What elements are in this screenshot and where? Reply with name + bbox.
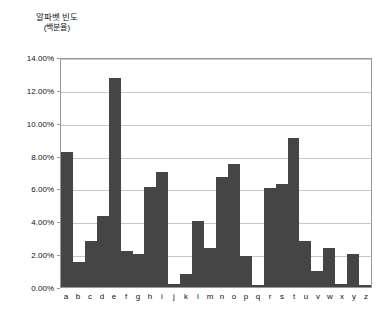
x-axis-tick-label: p	[240, 292, 252, 301]
x-axis-tick-label: v	[312, 292, 324, 301]
bar-slot	[216, 59, 228, 287]
y-axis-tick-label: 6.00%	[31, 185, 54, 194]
x-axis-tick-label: q	[252, 292, 264, 301]
bar-slot	[240, 59, 252, 287]
bar-slot	[121, 59, 133, 287]
x-axis-tick-label: e	[108, 292, 120, 301]
x-axis-tick-label: d	[96, 292, 108, 301]
x-axis-tick-label: g	[132, 292, 144, 301]
x-axis-tick-label: h	[144, 292, 156, 301]
bar-slot	[180, 59, 192, 287]
bar-m	[204, 248, 216, 287]
bar-slot	[347, 59, 359, 287]
bar-e	[109, 78, 121, 287]
bar-g	[133, 254, 145, 287]
chart-subtitle: (백분율)	[14, 23, 100, 33]
y-axis: 14.00%12.00%10.00%8.00%6.00%4.00%2.00%0.…	[0, 58, 60, 288]
bar-y	[347, 254, 359, 287]
y-axis-tick-label: 8.00%	[31, 152, 54, 161]
x-axis-tick-label: b	[72, 292, 84, 301]
bar-q	[252, 285, 264, 287]
x-axis-tick-label: s	[276, 292, 288, 301]
y-axis-tick-label: 4.00%	[31, 218, 54, 227]
x-axis-tick-label: t	[288, 292, 300, 301]
bar-c	[85, 241, 97, 287]
x-axis-tick-label: f	[120, 292, 132, 301]
bar-k	[180, 274, 192, 287]
x-axis-tick-label: k	[180, 292, 192, 301]
bar-slot	[264, 59, 276, 287]
y-axis-tick-label: 12.00%	[27, 86, 54, 95]
chart-container: 알파벳 빈도 (백분율) 14.00%12.00%10.00%8.00%6.00…	[0, 0, 382, 328]
bar-slot	[73, 59, 85, 287]
bar-slot	[168, 59, 180, 287]
bar-slot	[109, 59, 121, 287]
bar-slot	[156, 59, 168, 287]
bar-o	[228, 164, 240, 287]
bar-z	[359, 285, 371, 287]
bar-p	[240, 256, 252, 287]
x-axis-tick-label: j	[168, 292, 180, 301]
x-axis-tick-label: n	[216, 292, 228, 301]
x-axis-tick-label: x	[336, 292, 348, 301]
bar-slot	[192, 59, 204, 287]
bar-slot	[204, 59, 216, 287]
bar-h	[144, 187, 156, 287]
bar-slot	[288, 59, 300, 287]
bar-d	[97, 216, 109, 287]
chart-title-block: 알파벳 빈도 (백분율)	[14, 12, 100, 33]
x-axis-tick-label: c	[84, 292, 96, 301]
bar-slot	[359, 59, 371, 287]
bar-slot	[335, 59, 347, 287]
y-axis-tick-label: 0.00%	[31, 284, 54, 293]
bar-n	[216, 177, 228, 287]
bar-i	[156, 172, 168, 287]
bar-t	[288, 138, 300, 288]
x-axis-tick-label: r	[264, 292, 276, 301]
bar-slot	[323, 59, 335, 287]
y-axis-tick-label: 2.00%	[31, 251, 54, 260]
chart-title: 알파벳 빈도	[14, 12, 100, 23]
x-axis-tick-label: l	[192, 292, 204, 301]
x-axis-tick-label: o	[228, 292, 240, 301]
bar-slot	[144, 59, 156, 287]
x-axis-tick-label: z	[360, 292, 372, 301]
bar-w	[323, 248, 335, 287]
x-axis-tick-label: u	[300, 292, 312, 301]
plot-area	[60, 58, 372, 288]
bar-b	[73, 262, 85, 287]
bars-layer	[61, 59, 371, 287]
bar-slot	[133, 59, 145, 287]
x-axis-tick-label: w	[324, 292, 336, 301]
bar-slot	[85, 59, 97, 287]
bar-slot	[311, 59, 323, 287]
bar-u	[299, 241, 311, 287]
bar-slot	[228, 59, 240, 287]
bar-a	[61, 152, 73, 287]
bar-j	[168, 284, 180, 287]
bar-slot	[61, 59, 73, 287]
bar-slot	[97, 59, 109, 287]
bar-l	[192, 221, 204, 287]
x-axis-tick-label: m	[204, 292, 216, 301]
bar-slot	[299, 59, 311, 287]
bar-slot	[276, 59, 288, 287]
bar-v	[311, 271, 323, 287]
y-axis-tick-label: 10.00%	[27, 119, 54, 128]
x-axis-tick-label: a	[60, 292, 72, 301]
y-axis-tick-mark	[57, 288, 60, 289]
bar-r	[264, 188, 276, 287]
x-axis: abcdefghijklmnopqrstuvwxyz	[60, 292, 372, 301]
x-axis-tick-label: i	[156, 292, 168, 301]
y-axis-tick-label: 14.00%	[27, 54, 54, 63]
bar-slot	[252, 59, 264, 287]
bar-s	[276, 184, 288, 288]
bar-x	[335, 284, 347, 287]
x-axis-tick-label: y	[348, 292, 360, 301]
bar-f	[121, 251, 133, 287]
